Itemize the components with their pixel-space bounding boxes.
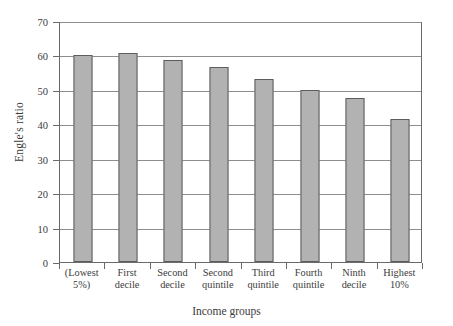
x-axis-tick-label-line: quintile [286, 279, 331, 291]
bar-slot [378, 22, 423, 262]
bar-slot [105, 22, 150, 262]
x-axis-tick-label-line: 5%) [59, 279, 104, 291]
bar-slot [242, 22, 287, 262]
x-axis-tick [422, 263, 423, 269]
y-axis-tick-label: 30 [18, 154, 48, 165]
x-axis-tick-label-line: (Lowest [65, 267, 99, 278]
plot-area [59, 22, 422, 263]
x-axis-tick-label-line: Fourth [295, 267, 322, 278]
bar[interactable] [300, 90, 319, 262]
x-axis-title: Income groups [0, 305, 453, 317]
x-axis-tick-label: Ninthdecile [331, 267, 376, 292]
bar[interactable] [73, 55, 92, 262]
x-axis-tick-label: (Lowest5%) [59, 267, 104, 292]
bar[interactable] [255, 79, 274, 262]
bar[interactable] [391, 119, 410, 262]
y-axis-tick-label: 70 [18, 17, 48, 28]
x-axis-tick-label: Seconddecile [150, 267, 195, 292]
x-axis-tick-label-line: 10% [377, 279, 422, 291]
y-axis-tick-label: 60 [18, 51, 48, 62]
y-axis-tick-label: 0 [18, 258, 48, 269]
y-axis-title-text: Engle's ratio [13, 102, 25, 162]
y-axis-tick-label: 40 [18, 120, 48, 131]
x-axis-tick-label-line: Second [203, 267, 233, 278]
x-axis-tick-label-line: First [118, 267, 137, 278]
x-axis-tick-label-line: decile [331, 279, 376, 291]
bar-slot [151, 22, 196, 262]
y-axis-tick-label: 50 [18, 85, 48, 96]
bar[interactable] [164, 60, 183, 262]
x-axis-tick-label-line: quintile [195, 279, 240, 291]
x-axis-tick-label-line: decile [104, 279, 149, 291]
y-axis-tick-label: 10 [18, 223, 48, 234]
x-axis-tick-label: Highest10% [377, 267, 422, 292]
bar-slot [60, 22, 105, 262]
x-axis-tick-label: Firstdecile [104, 267, 149, 292]
x-axis-tick-label: Fourthquintile [286, 267, 331, 292]
bar[interactable] [209, 67, 228, 262]
x-axis-tick-label-line: decile [150, 279, 195, 291]
x-axis-tick-label-line: quintile [241, 279, 286, 291]
bar-chart: Engle's ratio 010203040506070 (Lowest5%)… [0, 0, 453, 326]
x-axis-tick-label: Secondquintile [195, 267, 240, 292]
x-axis-tick-label-line: Ninth [342, 267, 365, 278]
bar-slot [332, 22, 377, 262]
x-axis-tick-label: Thirdquintile [241, 267, 286, 292]
bar[interactable] [345, 98, 364, 262]
x-axis-tick-label-line: Second [157, 267, 187, 278]
x-axis-tick-label-line: Third [252, 267, 275, 278]
bar[interactable] [119, 53, 138, 262]
bar-slot [287, 22, 332, 262]
x-axis-tick-label-line: Highest [383, 267, 415, 278]
bar-series [60, 22, 421, 262]
x-axis-tick-labels: (Lowest5%)FirstdecileSeconddecileSecondq… [59, 267, 422, 299]
y-axis-tick-label: 20 [18, 189, 48, 200]
bar-slot [196, 22, 241, 262]
